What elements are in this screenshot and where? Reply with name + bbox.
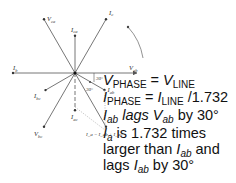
equation-part: lags bbox=[118, 107, 153, 123]
parallelogram-line-diagonal bbox=[75, 107, 105, 130]
angle-label-2: 30° bbox=[86, 87, 93, 92]
equation-line: lags Iab by 30° bbox=[103, 158, 194, 177]
equation-part: lags bbox=[103, 157, 134, 173]
phasor-label-v-ab: Vab bbox=[129, 64, 138, 73]
rotation-arc bbox=[128, 27, 143, 58]
phasor-tip-i-bc bbox=[44, 89, 46, 91]
equation-part: V bbox=[153, 107, 163, 123]
equation-part: is 1.732 times bbox=[113, 125, 207, 141]
equation-part: and bbox=[192, 141, 220, 157]
phasor-label-i-ca: Ica bbox=[70, 26, 78, 35]
phasor-tip-i-ac bbox=[74, 109, 76, 111]
equation-part: PHASE bbox=[107, 96, 141, 107]
phasor-tip-v-ca bbox=[43, 18, 45, 20]
equation-part: = bbox=[141, 89, 158, 105]
angle-label-1: 30° bbox=[96, 76, 103, 81]
phasor-label-i-c: Ic bbox=[108, 9, 113, 17]
phasor-label-v-ca: Vca bbox=[47, 15, 56, 24]
phasor-tip-v-bc bbox=[43, 126, 45, 128]
equation-part: by 30° bbox=[149, 157, 194, 173]
equation-part: V bbox=[103, 72, 113, 88]
phasor-label-i-bc: Ibc bbox=[33, 92, 40, 101]
equation-part: V bbox=[163, 72, 173, 88]
phasor-label-i-b: Ib bbox=[12, 64, 18, 73]
phasor-label-v-bc: Vbc bbox=[34, 130, 42, 139]
equation-part: ab bbox=[107, 114, 118, 125]
origin-dot bbox=[73, 71, 76, 74]
equation-part: /1.732 bbox=[184, 89, 228, 105]
equation-part: ab bbox=[163, 114, 174, 125]
phasor-tip-i-ca bbox=[74, 35, 76, 37]
phasor-i-a bbox=[75, 73, 106, 127]
phasor-tip-i-c bbox=[105, 18, 107, 20]
equation-part: by 30° bbox=[174, 107, 219, 123]
equation-part: larger than bbox=[103, 141, 176, 157]
phasor-tip-i-b bbox=[12, 72, 14, 74]
phasor-label-i-ac: Iac bbox=[70, 113, 77, 122]
rotation-arc-start-dot bbox=[127, 26, 129, 28]
equation-part: LINE bbox=[162, 96, 184, 107]
phasor-i-c bbox=[75, 19, 106, 73]
equation-part: = bbox=[147, 72, 164, 88]
equation-part: ab bbox=[138, 164, 149, 175]
angle-marker-2-dot bbox=[89, 81, 91, 83]
